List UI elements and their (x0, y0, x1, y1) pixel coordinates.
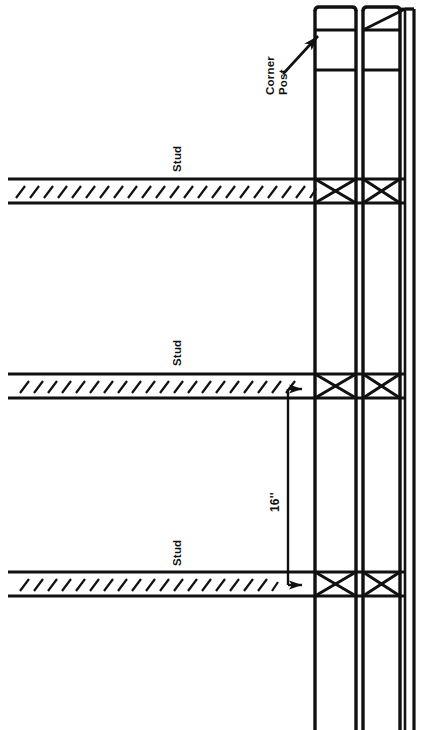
framing-diagram-svg (0, 0, 429, 730)
outer-sheathing-edge (363, 9, 414, 730)
x-brace-middle-right-post (363, 374, 400, 398)
x-brace-middle-left-post (315, 374, 356, 398)
x-brace-top-left-post (315, 179, 356, 203)
x-brace-bottom-left-post (315, 572, 356, 596)
x-brace-bottom-right-post (363, 572, 400, 596)
right-corner-post (362, 7, 401, 730)
stud-hatch-top (16, 186, 316, 198)
corner-post-label-line1: Corner (264, 56, 277, 95)
corner-post-label-line2: Post (277, 56, 290, 95)
diagram-canvas: Corner Post Stud Stud Stud 16'' (0, 0, 429, 730)
left-corner-post (314, 7, 357, 730)
stud-row-middle (8, 374, 405, 398)
dimension-bracket-16in (288, 389, 302, 585)
stud-label-middle: Stud (171, 340, 183, 366)
stud-hatch-middle (20, 381, 295, 393)
stud-label-bottom: Stud (171, 540, 183, 566)
stud-row-bottom (8, 572, 405, 596)
stud-row-top (8, 179, 405, 203)
stud-hatch-bottom (20, 579, 278, 591)
stud-label-top: Stud (171, 146, 183, 172)
corner-post-label: Corner Post (264, 56, 290, 95)
x-brace-top-right-post (363, 179, 400, 203)
corner-post-assembly (314, 7, 414, 730)
dimension-label-16in: 16'' (268, 492, 282, 512)
